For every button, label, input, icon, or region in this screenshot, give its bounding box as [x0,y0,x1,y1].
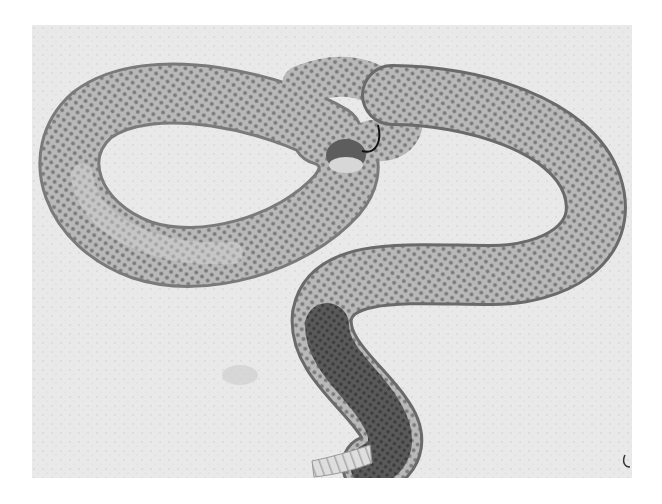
rattlesnake-photo [32,25,632,478]
snake-illustration [32,25,632,478]
